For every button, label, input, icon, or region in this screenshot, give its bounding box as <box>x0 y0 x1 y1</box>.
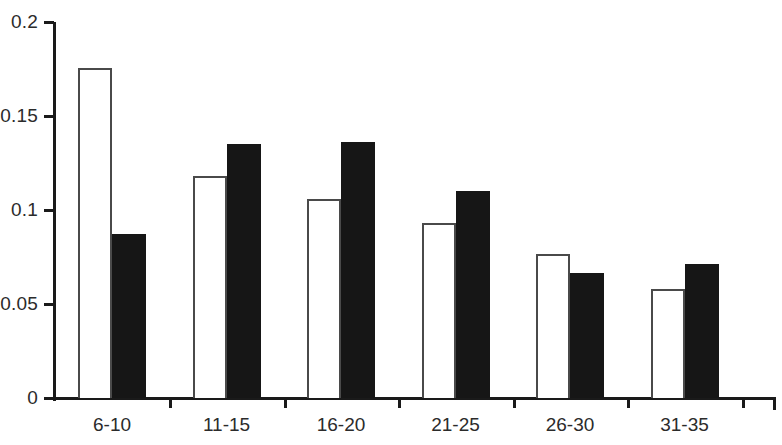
x-axis-label-11-15: 11-15 <box>182 415 272 434</box>
y-tick-label: 0.05 <box>0 294 38 313</box>
bar-open-11-15 <box>193 176 227 398</box>
bar-open-16-20 <box>307 199 341 398</box>
bar-filled-26-30 <box>570 273 604 398</box>
x-axis-label-26-30: 26-30 <box>525 415 615 434</box>
bar-open-31-35 <box>651 289 685 398</box>
x-tick-mark <box>513 398 516 408</box>
x-axis-end-cap <box>773 398 776 410</box>
x-axis-label-16-20: 16-20 <box>296 415 386 434</box>
bar-open-6-10 <box>78 68 112 398</box>
bar-filled-16-20 <box>341 142 375 398</box>
x-tick-mark <box>169 398 172 408</box>
x-tick-mark <box>742 398 745 408</box>
bar-filled-6-10 <box>112 234 146 398</box>
x-tick-mark <box>398 398 401 408</box>
bar-open-21-25 <box>422 223 456 398</box>
y-tick-label: 0.15 <box>0 106 38 125</box>
x-axis-label-6-10: 6-10 <box>67 415 157 434</box>
plot-area <box>53 22 775 398</box>
bar-filled-21-25 <box>456 191 490 398</box>
x-axis-label-21-25: 21-25 <box>411 415 501 434</box>
bar-chart: 00.050.10.150.2 6-1011-1516-2021-2526-30… <box>0 0 782 445</box>
y-tick-label: 0 <box>0 388 38 407</box>
x-tick-mark <box>627 398 630 408</box>
bar-filled-31-35 <box>685 264 719 398</box>
x-axis-label-31-35: 31-35 <box>640 415 730 434</box>
bar-filled-11-15 <box>227 144 261 398</box>
x-tick-mark <box>284 398 287 408</box>
y-tick-label: 0.1 <box>0 200 38 219</box>
bar-open-26-30 <box>536 254 570 398</box>
y-tick-label: 0.2 <box>0 12 38 31</box>
